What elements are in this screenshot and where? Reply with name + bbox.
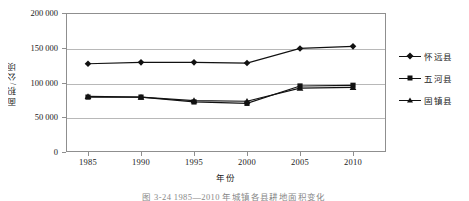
- y-tick-label: 100 000: [30, 78, 58, 88]
- y-tick-label: 0: [54, 147, 58, 157]
- y-tick-label: 200 000: [30, 8, 58, 18]
- y-tick-label: 50 000: [35, 112, 58, 122]
- x-tick-mark: [300, 152, 301, 156]
- x-tick-label: 2005: [291, 157, 309, 167]
- x-tick-mark: [194, 152, 195, 156]
- data-point-0-0: [85, 60, 92, 67]
- chart-legend: 怀远县 五河县 固镇县: [399, 51, 453, 105]
- data-point-0-3: [244, 60, 251, 67]
- legend-label: 怀远县: [424, 50, 453, 62]
- x-tick-label: 1985: [79, 157, 97, 167]
- legend-item-guzhen: 固镇县: [399, 95, 453, 105]
- legend-label: 五河县: [424, 72, 453, 84]
- x-tick-label: 1995: [185, 157, 203, 167]
- figure-caption: 图 3-24 1985—2010 年城镇各县耕地面积变化: [142, 190, 326, 201]
- x-tick-mark: [88, 152, 89, 156]
- x-tick-mark: [353, 152, 354, 156]
- x-axis-title: 年份: [216, 171, 237, 183]
- legend-marker-diamond-icon: [399, 51, 421, 61]
- series-layer: [66, 13, 386, 152]
- x-tick-label: 2000: [238, 157, 256, 167]
- y-tick-label: 150 000: [30, 43, 58, 53]
- series-line-2: [88, 87, 353, 101]
- series-line-0: [88, 46, 353, 63]
- legend-item-huaiyuan: 怀远县: [399, 51, 453, 61]
- data-point-0-5: [350, 43, 357, 50]
- x-tick-label: 1990: [132, 157, 150, 167]
- y-axis-title-text: 面积/公顷: [7, 60, 19, 106]
- y-tick-mark: [62, 152, 66, 153]
- legend-label: 固镇县: [424, 94, 453, 106]
- y-axis-title: 面积/公顷: [6, 28, 20, 138]
- legend-marker-square-icon: [399, 73, 421, 83]
- data-point-0-1: [138, 59, 145, 66]
- legend-marker-triangle-icon: [399, 95, 421, 105]
- x-tick-label: 2010: [344, 157, 362, 167]
- figure-line-chart: 0 50 000 100 000 150 000 200 000 面积/公顷 1…: [0, 0, 469, 201]
- x-tick-mark: [247, 152, 248, 156]
- data-point-0-4: [297, 45, 304, 52]
- x-tick-mark: [141, 152, 142, 156]
- legend-item-wuhe: 五河县: [399, 73, 453, 83]
- data-point-0-2: [191, 59, 198, 66]
